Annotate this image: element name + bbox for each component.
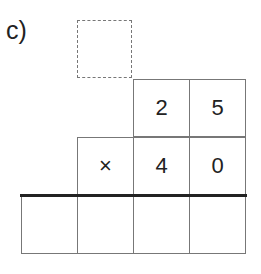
multiplier-ones: 0 bbox=[189, 137, 246, 195]
result-line bbox=[20, 194, 247, 197]
answer-hundreds[interactable] bbox=[77, 196, 134, 254]
answer-thousands[interactable] bbox=[21, 196, 78, 254]
answer-tens[interactable] bbox=[133, 196, 190, 254]
problem-label: c) bbox=[6, 18, 27, 43]
answer-ones[interactable] bbox=[189, 196, 246, 254]
multiplicand-ones: 5 bbox=[189, 79, 246, 137]
multiplicand-tens: 2 bbox=[133, 79, 190, 137]
multiplier-tens: 4 bbox=[133, 137, 190, 195]
carry-box[interactable] bbox=[77, 20, 132, 78]
times-sign: × bbox=[77, 137, 134, 195]
